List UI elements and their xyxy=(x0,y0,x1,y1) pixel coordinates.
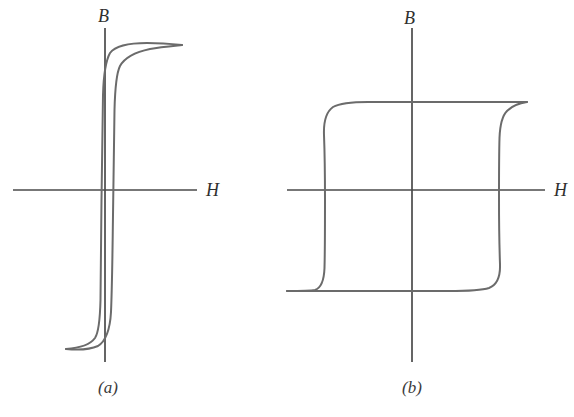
panel-a-loop-ascending xyxy=(66,43,182,349)
panel-b-loop-ascending xyxy=(287,102,527,291)
panel-a-h-axis-label: H xyxy=(205,180,220,200)
panel-b-b-axis-label: B xyxy=(404,8,415,28)
panel-b: H B (b) xyxy=(287,8,568,397)
figure-canvas: H B (a) H B (b) xyxy=(0,0,574,417)
panel-a: H B (a) xyxy=(13,6,220,397)
panel-b-caption: (b) xyxy=(402,378,422,397)
panel-a-caption: (a) xyxy=(98,378,118,397)
panel-a-loop-descending xyxy=(66,45,182,350)
hysteresis-figure: H B (a) H B (b) xyxy=(0,0,574,417)
panel-a-b-axis-label: B xyxy=(98,6,109,26)
panel-b-h-axis-label: H xyxy=(553,180,568,200)
